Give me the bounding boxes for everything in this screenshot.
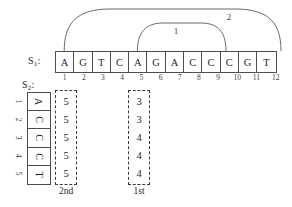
s1-cell: G bbox=[147, 52, 165, 72]
s2-position-index-column: 12345 bbox=[13, 92, 25, 183]
sequence-alignment-figure: 1 2 S1: AGTCAGACCCGT 123456789101112 S2:… bbox=[0, 0, 292, 207]
s1-position-label: 4 bbox=[113, 73, 132, 82]
s1-position-label: 10 bbox=[228, 73, 247, 82]
dp-cell: 5 bbox=[56, 128, 76, 146]
dp-cell: 3 bbox=[129, 92, 149, 110]
s2-cell: A bbox=[28, 93, 50, 111]
s1-position-label: 5 bbox=[132, 73, 151, 82]
s2-label-subscript: 2 bbox=[28, 84, 32, 92]
dp-cell: 4 bbox=[129, 165, 149, 183]
s1-sequence-table: AGTCAGACCCGT bbox=[55, 51, 277, 73]
s1-cell: T bbox=[93, 52, 111, 72]
s1-cell: G bbox=[239, 52, 257, 72]
s1-cell: A bbox=[166, 52, 184, 72]
s1-cell: A bbox=[56, 52, 74, 72]
dp-cell: 3 bbox=[129, 110, 149, 128]
arc-inner-label: 1 bbox=[166, 27, 186, 36]
s1-position-label: 11 bbox=[247, 73, 266, 82]
dp-cell: 5 bbox=[56, 147, 76, 165]
s2-cell-text: C bbox=[33, 135, 44, 142]
s1-label-colon: : bbox=[37, 55, 40, 66]
s2-row-label: S2: bbox=[22, 79, 34, 90]
s1-row-label: S1: bbox=[28, 55, 40, 66]
s2-position-label: 5 bbox=[13, 165, 25, 183]
dp-cell: 5 bbox=[56, 110, 76, 128]
dp-column-1st-caption: 1st bbox=[119, 186, 159, 196]
s2-cell-text: C bbox=[33, 153, 44, 160]
s2-position-label: 3 bbox=[13, 128, 25, 146]
s1-position-label: 1 bbox=[55, 73, 74, 82]
dp-column-2nd-caption: 2nd bbox=[46, 186, 86, 196]
s2-position-label-text: 3 bbox=[15, 136, 24, 140]
s1-position-label: 3 bbox=[93, 73, 112, 82]
s1-position-label: 9 bbox=[209, 73, 228, 82]
arc-outer-label-text: 2 bbox=[227, 12, 232, 22]
dp-column-1st: 33444 bbox=[128, 90, 150, 185]
s2-cell-text: C bbox=[33, 116, 44, 123]
dp-cell: 4 bbox=[129, 147, 149, 165]
s2-cell: C bbox=[28, 129, 50, 147]
s1-label-subscript: 1 bbox=[34, 60, 38, 68]
s1-position-index-row: 123456789101112 bbox=[55, 73, 285, 82]
s2-position-label-text: 5 bbox=[15, 172, 24, 176]
s2-position-label: 4 bbox=[13, 147, 25, 165]
s2-position-label-text: 2 bbox=[15, 117, 24, 121]
s2-cell-text: A bbox=[33, 98, 44, 105]
dp-column-1st-caption-text: 1st bbox=[133, 186, 144, 196]
s1-label-text: S bbox=[28, 55, 34, 66]
dp-column-2nd: 55555 bbox=[55, 90, 77, 185]
s2-position-label: 2 bbox=[13, 110, 25, 128]
arc-inner-label-text: 1 bbox=[174, 26, 179, 36]
s2-position-label-text: 4 bbox=[15, 154, 24, 158]
s2-label-colon: : bbox=[31, 79, 34, 90]
s1-position-label: 8 bbox=[189, 73, 208, 82]
s1-position-label: 6 bbox=[151, 73, 170, 82]
arc-outer-label: 2 bbox=[219, 13, 239, 22]
s1-cell: C bbox=[221, 52, 239, 72]
s2-cell: C bbox=[28, 111, 50, 129]
dp-cell: 4 bbox=[129, 128, 149, 146]
s2-cell: T bbox=[28, 166, 50, 184]
s1-cell: C bbox=[202, 52, 220, 72]
s1-cell: C bbox=[111, 52, 129, 72]
s2-position-label: 1 bbox=[13, 92, 25, 110]
s1-position-label: 2 bbox=[74, 73, 93, 82]
s1-position-label: 7 bbox=[170, 73, 189, 82]
dp-cell: 5 bbox=[56, 92, 76, 110]
s2-label-text: S bbox=[22, 79, 28, 90]
s2-position-label-text: 1 bbox=[15, 99, 24, 103]
s2-sequence-table: ACCCT bbox=[27, 92, 51, 185]
s1-cell: G bbox=[74, 52, 92, 72]
s2-cell: C bbox=[28, 148, 50, 166]
dp-cell: 5 bbox=[56, 165, 76, 183]
s1-cell: A bbox=[129, 52, 147, 72]
dp-column-2nd-caption-text: 2nd bbox=[59, 186, 73, 196]
s2-cell-text: T bbox=[33, 172, 44, 178]
s1-position-label: 12 bbox=[266, 73, 285, 82]
s1-cell: C bbox=[184, 52, 202, 72]
s1-cell: T bbox=[257, 52, 275, 72]
